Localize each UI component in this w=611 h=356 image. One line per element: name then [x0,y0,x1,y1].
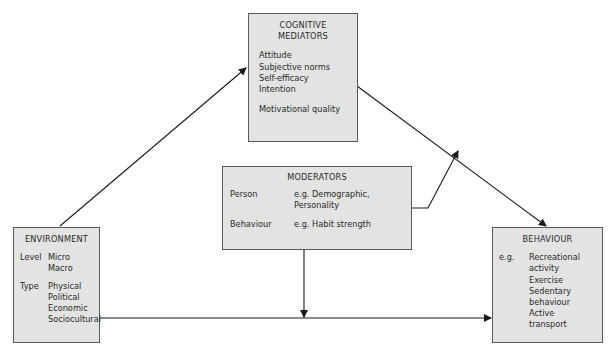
cognitive-mediators-title-line1: COGNITIVE [259,20,357,31]
behaviour-value-6: Active [529,308,602,319]
moderators-title: MODERATORS [230,172,411,183]
behaviour-value-5: behaviour [529,297,602,308]
environment-type-economic: Economic [48,303,101,314]
moderator-person-row: Person e.g. Demographic, Personality [230,189,411,211]
mediator-subjective-norms: Subjective norms [259,62,357,73]
environment-level-row: Level Micro Macro [20,252,99,274]
environment-level-micro: Micro [48,252,99,263]
behaviour-examples-row: e.g. Recreational activity Exercise Sede… [499,252,602,330]
moderator-behaviour-value: e.g. Habit strength [294,219,411,230]
behaviour-eg-label: e.g. [499,252,529,330]
behaviour-value-4: Sedentary [529,286,602,297]
environment-type-political: Political [48,292,101,303]
moderator-behaviour-row: Behaviour e.g. Habit strength [230,219,411,230]
mediator-attitude: Attitude [259,50,357,61]
mediator-intention: Intention [259,84,357,95]
moderator-person-value-1: e.g. Demographic, [294,189,411,200]
environment-level-macro: Macro [48,263,99,274]
cognitive-mediators-title-line2: MEDIATORS [259,31,357,42]
environment-box: ENVIRONMENT Level Micro Macro Type Physi… [13,227,100,343]
behaviour-box: BEHAVIOUR e.g. Recreational activity Exe… [492,227,603,343]
behaviour-value-1: Recreational [529,252,602,263]
behaviour-title: BEHAVIOUR [499,234,602,245]
moderator-person-label: Person [230,189,294,211]
environment-type-row: Type Physical Political Economic Sociocu… [20,281,99,326]
behaviour-value-2: activity [529,263,602,274]
environment-level-label: Level [20,252,48,274]
moderator-behaviour-label: Behaviour [230,219,294,230]
moderators-box: MODERATORS Person e.g. Demographic, Pers… [222,166,412,250]
behaviour-value-3: Exercise [529,275,602,286]
moderator-person-value-2: Personality [294,200,411,211]
cognitive-mediators-box: COGNITIVE MEDIATORS Attitude Subjective … [248,13,358,142]
environment-type-sociocultural: Sociocultural [48,314,101,325]
behaviour-value-7: transport [529,319,602,330]
mediator-motivational-quality: Motivational quality [259,104,357,115]
mediator-self-efficacy: Self-efficacy [259,73,357,84]
environment-title: ENVIRONMENT [20,234,99,245]
arrow-moderators-to-mediator-path [411,151,458,208]
environment-type-label: Type [20,281,48,326]
arrow-environment-to-mediators [60,68,246,226]
environment-type-physical: Physical [48,281,101,292]
